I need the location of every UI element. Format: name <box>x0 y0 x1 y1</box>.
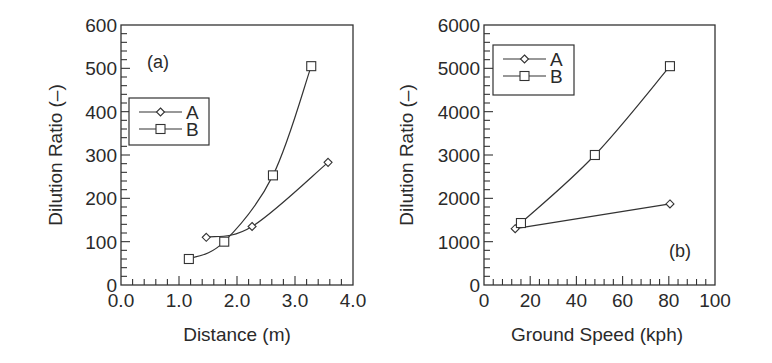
panel-a-x-ticks <box>133 276 342 285</box>
data-point-square-marker <box>307 62 316 71</box>
panel-a-y-ticks <box>121 34 130 277</box>
panel-a-series-b <box>184 62 315 264</box>
data-point-square-marker <box>665 62 674 71</box>
legend-label-b: B <box>186 119 199 140</box>
data-point-square-marker <box>268 171 277 180</box>
data-point-square-marker <box>184 255 193 264</box>
y-tick-label: 500 <box>85 58 117 79</box>
data-point-square-marker <box>516 219 525 228</box>
x-tick-label: 3.0 <box>282 290 308 311</box>
panel-a-xlabel: Distance (m) <box>183 324 291 345</box>
panel-b-x-ticks <box>493 276 706 285</box>
y-tick-label: 400 <box>85 102 117 123</box>
y-tick-label: 2000 <box>438 188 480 209</box>
y-tick-label: 3000 <box>438 145 480 166</box>
x-tick-label: 40 <box>566 290 587 311</box>
legend-label-b: B <box>550 66 563 87</box>
legend-square-marker <box>156 125 165 134</box>
panel-b-label: (b) <box>669 241 691 261</box>
panel-b-x-tick-labels: 020406080100 <box>479 290 731 311</box>
legend-square-marker <box>520 72 529 81</box>
figure: (a) Distance (m) Dilution Ratio (–) 0.01… <box>0 0 772 363</box>
x-tick-label: 1.0 <box>166 290 192 311</box>
panel-a-y-tick-labels: 0100200300400500600 <box>85 15 117 296</box>
y-tick-label: 1000 <box>438 232 480 253</box>
x-tick-label: 0 <box>479 290 490 311</box>
x-tick-label: 4.0 <box>340 290 366 311</box>
panel-a-ylabel: Dilution Ratio (–) <box>45 84 66 226</box>
x-tick-label: 60 <box>612 290 633 311</box>
panel-b-y-tick-labels: 0100020003000400050006000 <box>438 15 480 296</box>
data-point-square-marker <box>220 237 229 246</box>
y-tick-label: 600 <box>85 15 117 36</box>
data-point-diamond-marker <box>666 200 674 208</box>
panel-b-series-a <box>511 200 674 233</box>
x-tick-label: 100 <box>699 290 731 311</box>
y-tick-label: 0 <box>106 275 117 296</box>
series-line <box>189 66 311 259</box>
x-tick-label: 2.0 <box>224 290 250 311</box>
panel-b-legend: AB <box>493 45 574 95</box>
panel-a-label: (a) <box>147 52 169 72</box>
x-tick-label: 80 <box>658 290 679 311</box>
x-tick-label: 20 <box>520 290 541 311</box>
panel-b-xlabel: Ground Speed (kph) <box>511 324 683 345</box>
data-point-square-marker <box>590 151 599 160</box>
y-tick-label: 300 <box>85 145 117 166</box>
y-tick-label: 4000 <box>438 102 480 123</box>
panel-a-legend: AB <box>129 98 209 145</box>
chart-panel-b: (b) Ground Speed (kph) Dilution Ratio (–… <box>396 15 731 345</box>
panel-b-ylabel: Dilution Ratio (–) <box>396 84 417 226</box>
panel-a-x-tick-labels: 0.01.02.03.04.0 <box>108 290 366 311</box>
panel-b-y-ticks <box>484 34 493 277</box>
y-tick-label: 6000 <box>438 15 480 36</box>
series-line <box>206 162 328 237</box>
y-tick-label: 0 <box>469 275 480 296</box>
panel-a-series-a <box>202 158 332 241</box>
data-point-diamond-marker <box>202 233 210 241</box>
data-point-diamond-marker <box>248 223 256 231</box>
y-tick-label: 200 <box>85 188 117 209</box>
chart-panel-a: (a) Distance (m) Dilution Ratio (–) 0.01… <box>45 15 366 345</box>
y-tick-label: 100 <box>85 232 117 253</box>
y-tick-label: 5000 <box>438 58 480 79</box>
